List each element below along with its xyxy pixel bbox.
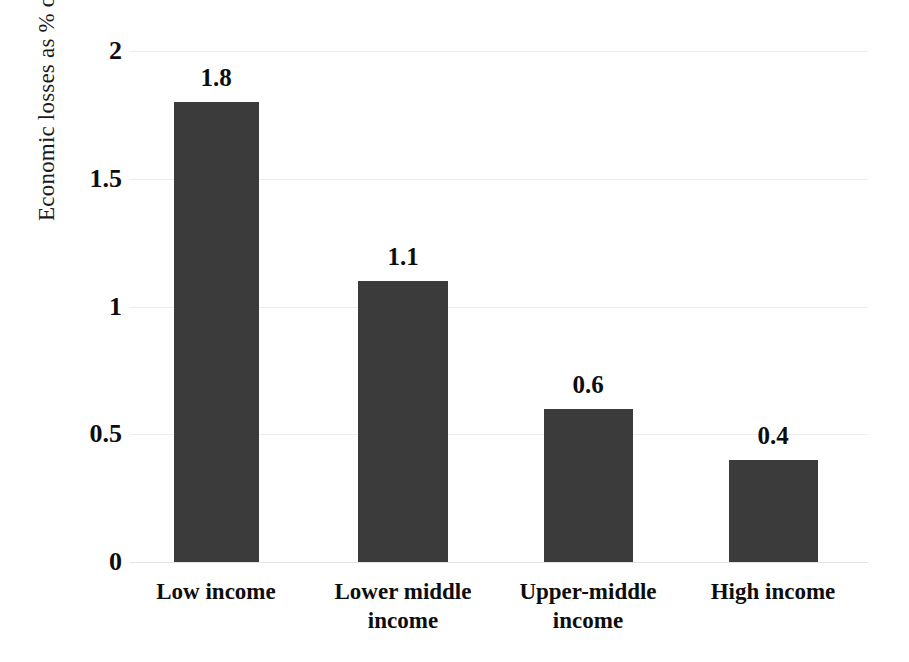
x-axis-category-label: Low income — [118, 578, 314, 607]
bar[interactable] — [544, 409, 633, 562]
bar-value-label: 0.6 — [528, 372, 648, 397]
x-axis-category-label: Upper-middleincome — [490, 578, 686, 635]
x-axis-category-label-line: Upper-middle — [490, 578, 686, 607]
bar-value-label: 1.1 — [343, 244, 463, 269]
x-axis-category-label-line: Low income — [118, 578, 314, 607]
bar[interactable] — [729, 460, 818, 562]
x-axis-category-label: Lower middleincome — [305, 578, 501, 635]
bar-value-label: 1.8 — [156, 65, 276, 90]
x-axis-category-label-line: Lower middle — [305, 578, 501, 607]
y-tick-label: 1.5 — [30, 166, 122, 192]
x-axis-category-label-line: income — [490, 607, 686, 636]
y-tick-label: 0.5 — [30, 421, 122, 447]
y-tick-label: 0 — [30, 549, 122, 575]
x-axis-category-label: High income — [675, 578, 871, 607]
gridline — [130, 562, 868, 563]
x-axis-category-label-line: High income — [675, 578, 871, 607]
gridline — [130, 51, 868, 52]
bar[interactable] — [358, 281, 448, 562]
bar-value-label: 0.4 — [713, 423, 833, 448]
bar-chart: Economic losses as % of GDP 00.511.521.8… — [0, 0, 909, 662]
x-axis-category-label-line: income — [305, 607, 501, 636]
bar[interactable] — [174, 102, 259, 562]
y-tick-label: 1 — [30, 294, 122, 320]
y-tick-label: 2 — [30, 38, 122, 64]
